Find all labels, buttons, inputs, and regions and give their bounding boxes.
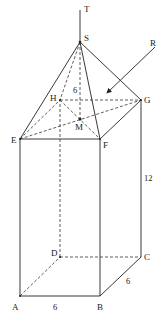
edge-BC (100, 257, 141, 296)
label-C: C (144, 252, 150, 262)
label-D: D (51, 248, 58, 258)
label-G: G (144, 95, 151, 105)
point-A (19, 295, 21, 297)
edge-AD (20, 257, 60, 296)
label-E: E (11, 135, 17, 145)
edge-FG (100, 100, 141, 139)
measure-BC: 6 (126, 276, 130, 286)
point-S (79, 41, 82, 44)
measure-AB: 6 (53, 302, 57, 312)
measure-SM: 6 (73, 85, 77, 95)
label-F: F (103, 140, 108, 150)
label-S: S (84, 33, 89, 43)
point-G (140, 99, 142, 101)
edge-SG (80, 42, 141, 100)
prism-pyramid-diagram: T S R H G M E F D C A B 6 12 6 6 (0, 0, 165, 323)
label-H: H (50, 93, 57, 103)
measure-CG: 12 (144, 173, 153, 183)
label-M: M (75, 122, 83, 132)
label-T: T (84, 4, 90, 14)
label-B: B (97, 302, 103, 312)
point-F (99, 138, 101, 140)
point-D (59, 256, 61, 258)
label-R: R (150, 38, 156, 48)
label-A: A (12, 302, 19, 312)
edge-SE (20, 42, 80, 139)
point-E (19, 138, 21, 140)
arrow-R (107, 47, 155, 93)
point-H (59, 99, 61, 101)
point-M (79, 118, 82, 121)
